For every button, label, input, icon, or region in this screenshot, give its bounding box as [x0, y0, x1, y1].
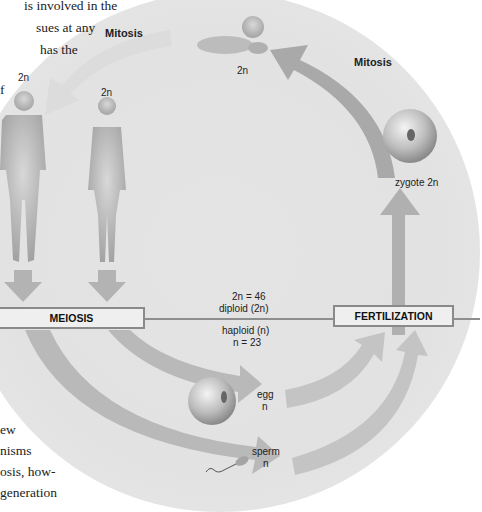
sperm-label: sperm: [252, 446, 280, 457]
diploid-label: diploid (2n): [219, 303, 268, 314]
body-line: nisms: [0, 440, 57, 461]
body-line: is involved in the: [24, 0, 117, 17]
body-text-bottom: ew nisms osis, how- generation: [0, 419, 57, 503]
egg-label: egg: [257, 389, 274, 400]
body-line: has the: [40, 39, 117, 61]
body-line: osis, how-: [0, 461, 57, 482]
baby-illustration: [197, 16, 268, 54]
body-line: generation: [0, 482, 57, 503]
male-figure: [0, 91, 46, 262]
zygote-label: zygote 2n: [395, 177, 438, 188]
male-ploidy-label: 2n: [18, 72, 29, 83]
haploid-label: haploid (n): [222, 325, 269, 336]
baby-ploidy-label: 2n: [237, 65, 248, 76]
meiosis-down-arrows: [4, 270, 126, 302]
egg-to-fertilization-arrow: [285, 332, 385, 408]
female-figure: [88, 97, 126, 262]
diploid-count: 2n = 46: [232, 291, 266, 302]
mitosis-label-top: Mitosis: [105, 27, 143, 39]
mitosis-label-right: Mitosis: [354, 56, 392, 68]
female-ploidy-label: 2n: [101, 87, 112, 98]
meiosis-box: MEIOSIS: [0, 307, 145, 329]
egg-illustration: [188, 377, 236, 425]
haploid-count: n = 23: [233, 337, 261, 348]
body-line: ew: [0, 419, 57, 440]
sperm-ploidy: n: [263, 458, 269, 469]
fertilization-box: FERTILIZATION: [333, 305, 454, 327]
egg-ploidy: n: [262, 401, 268, 412]
body-text-top: is involved in the sues at any has the f: [0, 0, 117, 101]
zygote-illustration: [383, 109, 437, 163]
sperm-illustration: [206, 454, 250, 472]
